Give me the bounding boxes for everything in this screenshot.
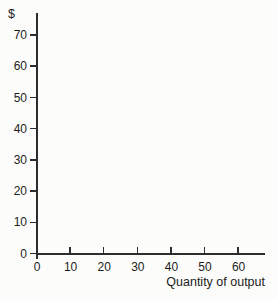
y-tick-label: 0	[20, 247, 27, 261]
blank-axes-chart: $ 0102030405060700102030405060 Quantity …	[0, 0, 277, 299]
x-axis-title: Quantity of output	[166, 276, 265, 289]
x-tick-label: 10	[64, 260, 78, 274]
x-tick-label: 40	[165, 260, 179, 274]
x-tick-label: 50	[198, 260, 212, 274]
y-tick-label: 20	[14, 184, 28, 198]
x-tick-label: 20	[98, 260, 112, 274]
x-tick-label: 30	[131, 260, 145, 274]
y-tick-label: 50	[14, 91, 28, 105]
y-tick-label: 10	[14, 215, 28, 229]
x-tick-label: 60	[232, 260, 246, 274]
y-tick-label: 60	[14, 59, 28, 73]
y-tick-label: 70	[14, 28, 28, 42]
plot-area: 0102030405060700102030405060	[0, 0, 277, 299]
y-tick-label: 30	[14, 153, 28, 167]
x-tick-label: 0	[34, 260, 41, 274]
y-tick-label: 40	[14, 122, 28, 136]
